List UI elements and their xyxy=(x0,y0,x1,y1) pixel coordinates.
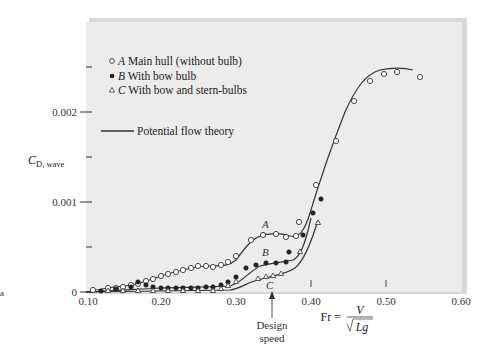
svg-text:Lg: Lg xyxy=(355,320,369,334)
legend-filled-circle-icon xyxy=(110,74,115,79)
svg-text:Design: Design xyxy=(256,319,288,331)
stray-letter: a xyxy=(0,288,4,298)
y-tick-0.001: 0.001 xyxy=(52,196,77,208)
svg-text:C With bow and stern-bulbs: C With bow and stern-bulbs xyxy=(118,84,248,96)
x-tick-0.30: 0.30 xyxy=(226,295,246,307)
svg-text:V: V xyxy=(356,303,365,317)
legend-open-circle-icon xyxy=(110,59,115,64)
x-axis-title: Fr = V Lg xyxy=(321,303,373,334)
svg-text:D, wave: D, wave xyxy=(36,159,65,169)
svg-text:Potential flow theory: Potential flow theory xyxy=(137,125,234,138)
svg-text:A Main hull (without bulb): A Main hull (without bulb) xyxy=(117,55,242,68)
x-tick-0.60: 0.60 xyxy=(451,295,471,307)
curve-label-a: A xyxy=(261,218,269,230)
x-tick-0.40: 0.40 xyxy=(301,295,321,307)
design-speed-annotation: Design speed xyxy=(256,291,288,344)
y-tick-0: 0 xyxy=(72,286,78,298)
curve-label-b: B xyxy=(262,246,269,258)
x-tick-0.20: 0.20 xyxy=(151,295,171,307)
svg-text:speed: speed xyxy=(259,332,285,344)
svg-text:B With bow bulb: B With bow bulb xyxy=(118,70,196,82)
curve-label-c: C xyxy=(266,279,274,291)
y-tick-0.002: 0.002 xyxy=(52,106,77,118)
x-tick-0.10: 0.10 xyxy=(78,295,98,307)
wave-drag-chart: 0 0.001 0.002 0.10 0.20 0.30 0.40 0.50 0… xyxy=(0,0,488,354)
y-axis-title: C D, wave xyxy=(28,153,65,169)
x-tick-0.50: 0.50 xyxy=(376,295,396,307)
svg-text:Fr =: Fr = xyxy=(321,310,342,324)
